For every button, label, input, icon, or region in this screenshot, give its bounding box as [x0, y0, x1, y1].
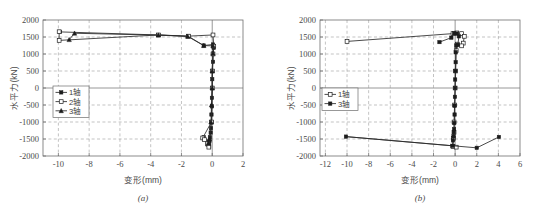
y-tick-label: -2000 — [19, 151, 39, 161]
data-point-marker — [453, 104, 456, 107]
data-point-marker — [451, 144, 454, 147]
y-axis-title: 水平力(kN) — [286, 66, 296, 109]
y-tick-label: 0 — [35, 83, 39, 93]
chart-panel-b: -2000-1500-1000-5000500100015002000-12-1… — [277, 0, 554, 221]
y-tick-label: -500 — [300, 100, 316, 110]
x-tick-label: -4 — [147, 159, 155, 169]
legend-marker — [329, 102, 332, 105]
data-point-marker — [475, 146, 478, 149]
legend: 1轴2轴3轴 — [53, 86, 89, 118]
data-point-marker — [455, 44, 458, 47]
panel-caption: (a) — [138, 193, 149, 203]
x-tick-label: -8 — [86, 159, 93, 169]
y-tick-label: -1500 — [296, 134, 316, 144]
y-tick-label: 500 — [26, 66, 39, 76]
data-point-marker — [57, 30, 61, 34]
x-tick-label: -12 — [320, 159, 331, 169]
x-tick-labels: -10-8-6-4-202 — [53, 159, 245, 169]
x-tick-label: -8 — [365, 159, 372, 169]
x-tick-label: -6 — [387, 159, 394, 169]
legend-marker — [60, 91, 63, 94]
data-point-marker — [452, 131, 455, 134]
series-polyline — [347, 33, 464, 147]
y-tick-label: 0 — [312, 83, 316, 93]
data-point-marker — [453, 78, 456, 81]
y-tick-label: 1500 — [299, 32, 316, 42]
legend-label: 1轴 — [69, 87, 81, 97]
data-point-marker — [344, 135, 347, 138]
data-point-marker — [454, 60, 457, 63]
figure-container: -2000-1500-1000-5000500100015002000-10-8… — [0, 0, 554, 221]
y-tick-label: 1500 — [22, 32, 39, 42]
legend-label: 3轴 — [69, 106, 81, 116]
y-tick-label: -1000 — [19, 117, 39, 127]
x-tick-label: -2 — [178, 159, 185, 169]
x-tick-label: 2 — [241, 159, 245, 169]
y-tick-labels: -2000-1500-1000-5000500100015002000 — [19, 15, 39, 161]
y-tick-label: -2000 — [296, 151, 316, 161]
data-point-marker — [451, 139, 454, 142]
y-tick-label: 1000 — [299, 49, 316, 59]
x-tick-label: -10 — [53, 159, 64, 169]
legend-marker — [328, 93, 332, 97]
y-tick-label: -1000 — [296, 117, 316, 127]
data-point-marker — [209, 126, 212, 129]
y-tick-label: 2000 — [22, 15, 39, 25]
data-point-marker — [460, 44, 464, 48]
x-tick-label: 2 — [475, 159, 479, 169]
data-point-marker — [345, 40, 349, 44]
data-point-marker — [453, 121, 456, 124]
x-tick-label: 0 — [453, 159, 457, 169]
data-point-marker — [452, 135, 455, 138]
legend-marker — [59, 100, 63, 104]
data-point-marker — [454, 51, 457, 54]
y-tick-label: 2000 — [299, 15, 316, 25]
data-point-marker — [450, 36, 453, 39]
x-tick-label: -4 — [408, 159, 416, 169]
legend: 1轴3轴 — [322, 88, 358, 110]
data-point-marker — [207, 145, 211, 149]
x-axis-title: 变形(mm) — [401, 175, 439, 185]
y-tick-labels: -2000-1500-1000-5000500100015002000 — [296, 15, 316, 161]
legend-label: 3轴 — [338, 99, 350, 109]
series-1轴 — [345, 31, 466, 149]
data-point-marker — [57, 39, 61, 43]
data-point-marker — [453, 113, 456, 116]
chart-svg-a: -2000-1500-1000-5000500100015002000-10-8… — [0, 0, 277, 221]
y-tick-label: 500 — [303, 66, 316, 76]
legend-label: 2轴 — [69, 97, 81, 107]
x-tick-label: 6 — [518, 159, 522, 169]
data-point-marker — [203, 138, 207, 142]
data-point-marker — [209, 131, 212, 134]
x-tick-label: -2 — [430, 159, 437, 169]
chart-panel-a: -2000-1500-1000-5000500100015002000-10-8… — [0, 0, 277, 221]
series-3轴 — [344, 32, 500, 150]
panel-caption: (b) — [415, 193, 426, 203]
data-point-marker — [497, 135, 500, 138]
data-point-marker — [453, 95, 456, 98]
data-point-marker — [462, 34, 466, 38]
y-axis-title: 水平力(kN) — [9, 66, 19, 109]
chart-svg-b: -2000-1500-1000-5000500100015002000-12-1… — [277, 0, 554, 221]
y-tick-label: 1000 — [22, 49, 39, 59]
data-point-marker — [438, 40, 441, 43]
y-tick-label: -500 — [23, 100, 39, 110]
x-axis-title: 变形(mm) — [124, 175, 162, 185]
x-tick-label: -6 — [116, 159, 123, 169]
data-point-marker — [211, 33, 215, 37]
data-point-marker — [457, 35, 460, 38]
x-tick-label: 0 — [210, 159, 214, 169]
x-tick-label: 4 — [496, 159, 501, 169]
legend-label: 1轴 — [338, 89, 350, 99]
x-tick-label: -10 — [341, 159, 352, 169]
data-point-marker — [453, 86, 456, 89]
data-point-marker — [454, 69, 457, 72]
y-tick-label: -1500 — [19, 134, 39, 144]
x-tick-labels: -12-10-8-6-4-20246 — [320, 159, 522, 169]
